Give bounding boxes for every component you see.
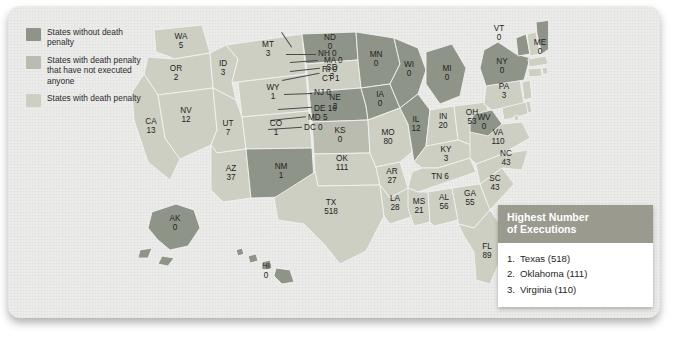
state-or — [144, 53, 213, 95]
state-hi — [236, 248, 294, 284]
callout-body: 1. Texas (518) 2. Oklahoma (111) 3. Virg… — [498, 243, 653, 307]
legend-swatch-icon — [26, 28, 41, 41]
legend-item-without-death-penalty: States without death penalty — [26, 27, 146, 48]
state-sd — [306, 60, 361, 92]
legend-item-with-death-penalty: States with death penalty — [26, 93, 146, 107]
legend-item-label: States without death penalty — [47, 27, 146, 48]
ranking-number: 2. — [507, 268, 520, 279]
infographic-panel: States without death penalty States with… — [8, 6, 660, 318]
state-az — [211, 145, 251, 202]
state-ok — [314, 153, 380, 186]
map-legend: States without death penalty States with… — [26, 27, 146, 114]
highest-executions-callout: Highest Number of Executions 1. Texas (5… — [498, 205, 653, 307]
ranking-text: Virginia (110) — [520, 284, 576, 295]
state-ne — [309, 88, 368, 122]
ranking-number: 1. — [507, 253, 520, 264]
state-ks — [312, 120, 370, 154]
legend-item-label: States with death penalty — [47, 93, 141, 103]
state-wy — [238, 74, 309, 117]
ranking-text: Oklahoma (111) — [520, 268, 587, 279]
ranking-item: 1. Texas (518) — [507, 253, 644, 264]
leader-line-nh — [286, 54, 316, 55]
us-choropleth-map: WA5OR2CA13NV12ID3MT3WY1UT7AZ37CO1NM1ND0S… — [118, 12, 548, 312]
state-ms — [408, 188, 430, 226]
callout-header: Highest Number of Executions — [498, 205, 653, 243]
state-nd — [302, 32, 358, 64]
callout-title-line1: Highest Number — [507, 211, 589, 223]
callout-title-line2: of Executions — [507, 223, 576, 235]
legend-item-not-executed: States with death penalty that have not … — [26, 55, 146, 86]
state-wa — [154, 25, 210, 59]
ranking-number: 3. — [507, 284, 520, 295]
legend-item-label: States with death penalty that have not … — [47, 55, 146, 86]
state-shapes — [132, 20, 548, 284]
state-in — [426, 106, 458, 146]
ranking-item: 2. Oklahoma (111) — [507, 268, 644, 279]
state-ak — [138, 204, 200, 266]
state-mi — [426, 44, 466, 104]
legend-swatch-icon — [26, 94, 41, 107]
map-svg — [118, 12, 548, 312]
state-mt — [226, 34, 306, 82]
ranking-item: 3. Virginia (110) — [507, 284, 644, 295]
legend-swatch-icon — [26, 56, 41, 69]
ranking-text: Texas (518) — [520, 253, 570, 264]
